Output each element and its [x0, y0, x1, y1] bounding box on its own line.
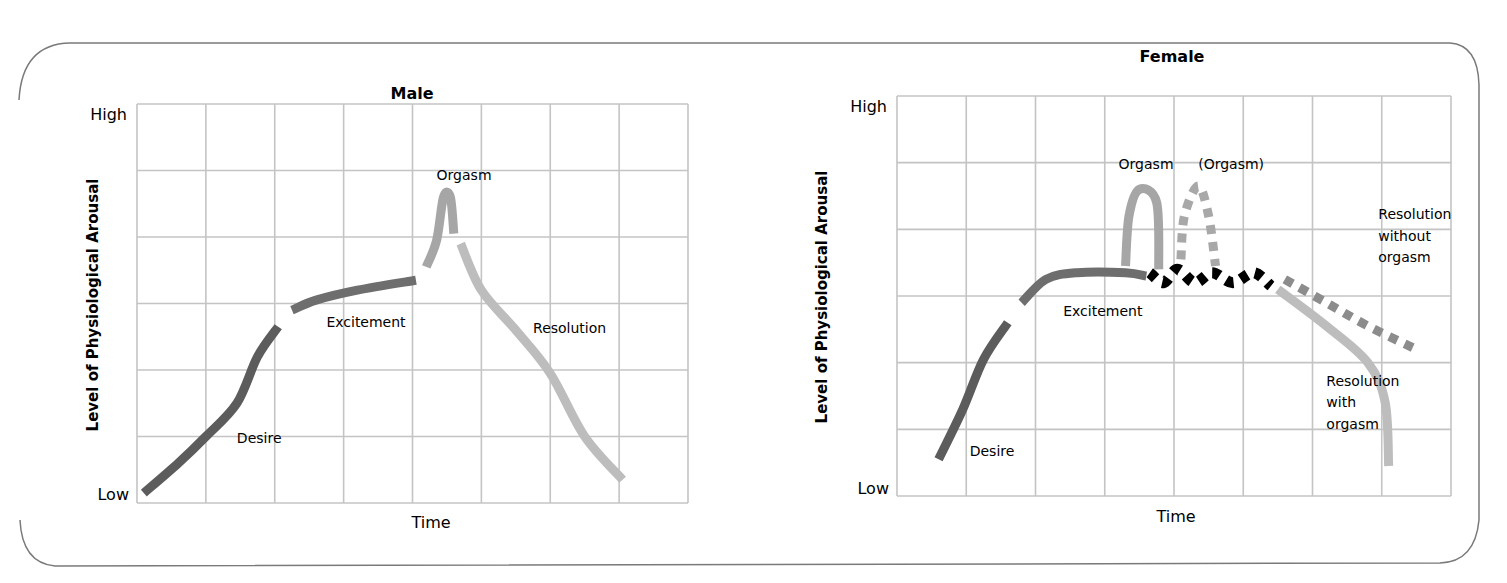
annotation-orgasm: orgasm — [1378, 249, 1430, 265]
annotation-excitement: Excitement — [326, 314, 406, 330]
female-chart-title: Female — [1140, 47, 1205, 66]
curve-excitement — [1022, 272, 1147, 303]
sexual-response-cycle-figure: Male OrgasmExcitementResolutionDesire Hi… — [0, 0, 1507, 583]
female-y-axis-label: Level of Physiological Arousal — [813, 171, 831, 424]
annotation-orgasm: Orgasm — [1119, 156, 1174, 172]
annotation-desire: Desire — [970, 443, 1015, 459]
annotation-excitement: Excitement — [1063, 303, 1143, 319]
curve-plateau-oscillation — [1150, 269, 1271, 286]
male-grid — [137, 104, 688, 503]
female-x-axis-label: Time — [1155, 507, 1195, 526]
female-y-tick-low: Low — [857, 479, 889, 498]
annotation-with: with — [1326, 394, 1356, 410]
curve-desire — [144, 327, 278, 493]
annotation-desire: Desire — [237, 430, 282, 446]
male-y-tick-high: High — [90, 105, 127, 124]
male-y-tick-low: Low — [97, 485, 129, 504]
male-x-axis-label: Time — [410, 513, 450, 532]
annotation-orgasm: (Orgasm) — [1198, 156, 1264, 172]
annotation-orgasm: Orgasm — [437, 167, 492, 183]
female-y-tick-high: High — [850, 97, 887, 116]
annotation-resolution: Resolution — [1326, 373, 1399, 389]
figure-frame — [19, 43, 1479, 566]
annotation-without: without — [1378, 228, 1431, 244]
male-y-axis-label: Level of Physiological Arousal — [84, 179, 102, 432]
male-chart-title: Male — [390, 84, 433, 103]
curve-orgasm — [1181, 186, 1216, 266]
annotation-orgasm: orgasm — [1326, 416, 1378, 432]
curve-orgasm — [426, 192, 454, 267]
curve-resolution — [461, 244, 623, 480]
male-chart: Male OrgasmExcitementResolutionDesire Hi… — [84, 84, 688, 532]
female-annotations: Orgasm(Orgasm)ResolutionwithoutorgasmExc… — [970, 156, 1452, 459]
annotation-resolution: Resolution — [1378, 206, 1451, 222]
curve-excitement — [292, 280, 416, 310]
female-grid — [897, 96, 1451, 496]
female-chart: Female Orgasm(Orgasm)Resolutionwithoutor… — [813, 47, 1451, 526]
curve-desire — [939, 323, 1008, 460]
annotation-resolution: Resolution — [533, 320, 606, 336]
